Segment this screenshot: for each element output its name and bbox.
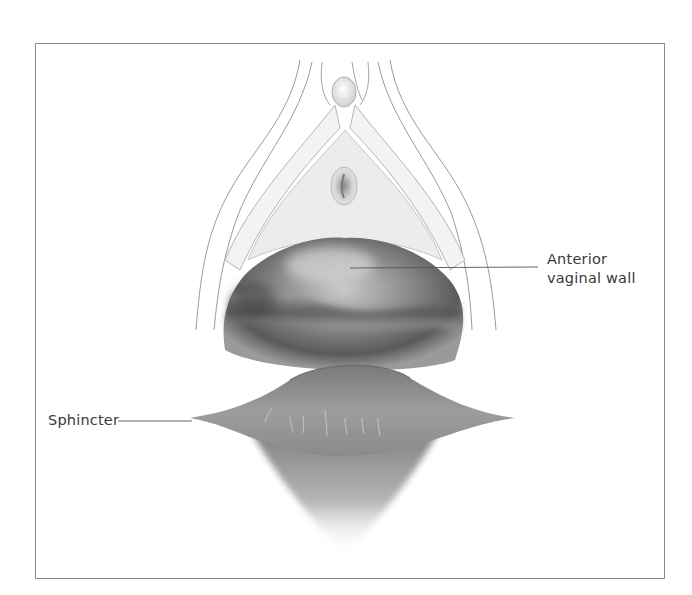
label-sphincter: Sphincter	[48, 411, 119, 430]
label-line: Anterior	[547, 250, 636, 269]
clitoris	[332, 77, 356, 107]
urethral-opening	[331, 167, 357, 205]
label-line: vaginal wall	[547, 269, 636, 288]
anatomical-illustration	[0, 0, 692, 595]
sphincter-ridge	[190, 365, 515, 456]
label-anterior-vaginal-wall: Anterior vaginal wall	[547, 250, 636, 288]
